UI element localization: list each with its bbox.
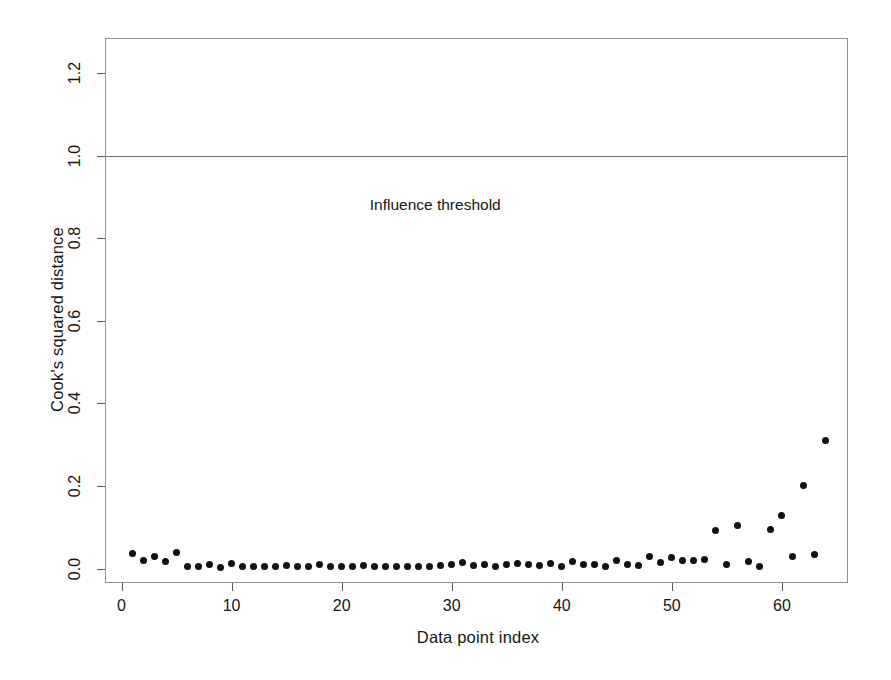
- data-point: [701, 556, 708, 563]
- y-tick-label: 0.8: [66, 216, 84, 260]
- y-tick-mark: [97, 321, 105, 322]
- data-point: [239, 563, 246, 570]
- y-tick-label: 1.2: [66, 51, 84, 95]
- data-point: [316, 561, 323, 568]
- data-point: [437, 562, 444, 569]
- data-point: [206, 561, 213, 568]
- y-tick-mark: [97, 156, 105, 157]
- y-tick-label: 0.4: [66, 381, 84, 425]
- y-tick-label: 0.0: [66, 547, 84, 591]
- y-tick-mark: [97, 73, 105, 74]
- cooks-distance-scatter-figure: Cook's squared distance Data point index…: [0, 0, 891, 680]
- x-tick-label: 20: [322, 597, 362, 615]
- x-tick-mark: [232, 583, 233, 591]
- x-tick-label: 10: [212, 597, 252, 615]
- plot-area: [105, 38, 848, 583]
- x-tick-mark: [342, 583, 343, 591]
- data-point: [195, 563, 202, 570]
- data-point: [217, 564, 224, 571]
- data-point: [558, 563, 565, 570]
- data-point: [426, 563, 433, 570]
- influence-threshold-label: Influence threshold: [370, 196, 501, 214]
- x-axis-title: Data point index: [108, 628, 848, 647]
- y-tick-mark: [97, 486, 105, 487]
- x-tick-label: 0: [102, 597, 142, 615]
- data-point: [173, 549, 180, 556]
- y-tick-mark: [97, 238, 105, 239]
- x-tick-label: 60: [762, 597, 802, 615]
- influence-threshold-line: [106, 156, 847, 157]
- y-tick-mark: [97, 569, 105, 570]
- data-point: [624, 561, 631, 568]
- data-point: [602, 563, 609, 570]
- x-tick-mark: [672, 583, 673, 591]
- x-tick-mark: [782, 583, 783, 591]
- x-tick-mark: [452, 583, 453, 591]
- data-point: [349, 563, 356, 570]
- x-tick-mark: [122, 583, 123, 591]
- y-tick-label: 0.2: [66, 464, 84, 508]
- x-tick-label: 50: [652, 597, 692, 615]
- data-point: [184, 563, 191, 570]
- x-tick-label: 30: [432, 597, 472, 615]
- data-point: [646, 553, 653, 560]
- x-tick-label: 40: [542, 597, 582, 615]
- data-point: [360, 562, 367, 569]
- x-tick-mark: [562, 583, 563, 591]
- data-point: [151, 553, 158, 560]
- y-tick-mark: [97, 403, 105, 404]
- data-point: [283, 562, 290, 569]
- y-axis-title: Cook's squared distance: [48, 110, 67, 530]
- data-point: [140, 557, 147, 564]
- data-point: [536, 562, 543, 569]
- y-tick-label: 0.6: [66, 299, 84, 343]
- y-tick-label: 1.0: [66, 134, 84, 178]
